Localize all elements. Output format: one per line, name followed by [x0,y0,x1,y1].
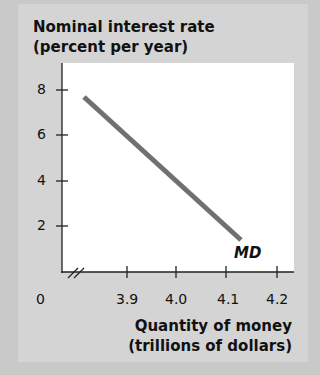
x-tick-label: 4.0 [165,291,187,307]
y-tick-label: 6 [37,126,46,142]
y-tick-label: 2 [37,217,46,233]
x-axis-title-line2: (trillions of dollars) [128,336,292,356]
x-axis-title-line1: Quantity of money [128,316,292,336]
x-tick-label: 3.9 [116,291,138,307]
x-tick-label: 0 [36,291,45,307]
md-curve-label: MD [234,244,261,262]
md-curve [84,97,241,240]
y-tick-label: 8 [37,81,46,97]
x-tick-label: 4.1 [217,291,239,307]
x-axis-title: Quantity of money (trillions of dollars) [128,316,292,356]
x-tick-label: 4.2 [266,291,288,307]
y-tick-label: 4 [37,172,46,188]
axis-break-icon [68,268,84,278]
